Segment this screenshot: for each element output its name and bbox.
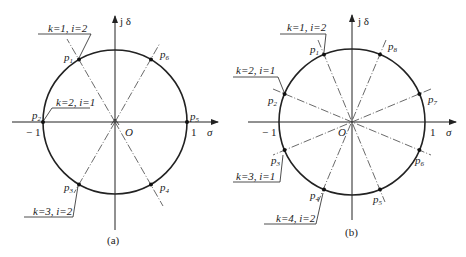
- callout-text-4: k=4, i=2: [276, 212, 316, 224]
- callout-text-3: k=3, i=2: [33, 205, 73, 217]
- callout-leader-2: [233, 77, 284, 92]
- pole-diagrams: j δ σ O − 1 1 (a) p1 p6 p2 p5 p3 p4 k=1,…: [0, 0, 466, 257]
- pole-label-p6: p6: [414, 154, 425, 168]
- pole-p5: [378, 187, 382, 191]
- pole-label-p3: p3: [63, 181, 74, 195]
- pole-p2: [283, 92, 287, 96]
- callout-text-2: k=2, i=1: [56, 96, 95, 108]
- pole-p6: [149, 58, 153, 62]
- figure-b: j δ σ O − 1 1 (b) p1 p8 p2 p7 p3 p6 p4 p…: [233, 15, 456, 239]
- y-axis-label: j δ: [357, 15, 369, 27]
- pos-one-label: 1: [191, 126, 197, 138]
- pole-label-p4: p4: [309, 189, 320, 203]
- pole-label-p6: p6: [159, 48, 170, 62]
- pole-p2: [41, 120, 45, 124]
- pole-line-p1: [67, 39, 115, 122]
- pole-label-p1: p1: [309, 43, 319, 57]
- pole-p5: [185, 120, 189, 124]
- pole-p4: [149, 182, 153, 186]
- pole-label-p7: p7: [427, 93, 438, 107]
- pole-label-p8: p8: [387, 40, 398, 54]
- pole-line-p3: [74, 122, 115, 193]
- callout-leader-2: [44, 108, 90, 120]
- pole-line-p6: [115, 43, 160, 122]
- pole-p1: [77, 58, 81, 62]
- pole-p1: [322, 53, 326, 57]
- callout-text-1: k=1, i=2: [287, 21, 327, 33]
- origin-label: O: [125, 126, 133, 138]
- caption-b: (b): [345, 226, 358, 239]
- pole-p4: [322, 187, 326, 191]
- pole-label-p5: p5: [189, 110, 200, 124]
- callout-text-1: k=1, i=2: [48, 22, 88, 34]
- callout-text-2: k=2, i=1: [236, 64, 275, 76]
- origin-label: O: [338, 126, 346, 138]
- pole-p7: [417, 92, 421, 96]
- pole-p3: [77, 182, 81, 186]
- callout-text-3: k=3, i=1: [236, 170, 275, 182]
- pole-p6: [417, 148, 421, 152]
- pole-label-p2: p2: [31, 109, 42, 123]
- neg-one-label: − 1: [262, 126, 276, 138]
- figure-a: j δ σ O − 1 1 (a) p1 p6 p2 p5 p3 p4 k=1,…: [12, 15, 218, 247]
- neg-one-label: − 1: [26, 126, 40, 138]
- pole-label-p3: p3: [270, 154, 281, 168]
- y-axis-label: j δ: [119, 15, 131, 27]
- x-axis-label: σ: [207, 126, 213, 138]
- pole-label-p4: p4: [159, 181, 170, 195]
- pos-one-label: 1: [430, 126, 436, 138]
- pole-label-p5: p5: [372, 193, 383, 207]
- caption-a: (a): [107, 234, 120, 247]
- pole-p8: [378, 53, 382, 57]
- pole-label-p1: p1: [63, 51, 73, 65]
- pole-label-p2: p2: [267, 94, 278, 108]
- x-axis-label: σ: [446, 126, 452, 138]
- pole-p3: [283, 148, 287, 152]
